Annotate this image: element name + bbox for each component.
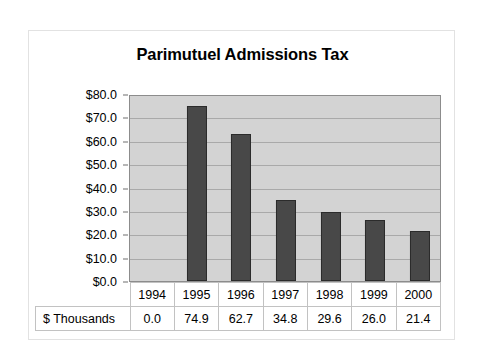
table-cell-value: 34.8 [263,307,307,331]
y-axis-tick-mark [123,118,128,119]
bar-slot-1999 [353,96,398,281]
table-row-values: $ Thousands 0.074.962.734.829.626.021.4 [36,307,441,331]
chart-title: Parimutuel Admissions Tax [29,45,456,64]
y-axis-tick-label: $10.0 [86,252,117,266]
table-cell-value: 29.6 [307,307,351,331]
bar-1998[interactable] [321,212,341,281]
y-axis-tick-label: $80.0 [86,88,117,102]
y-axis-tick-mark [123,258,128,259]
table-cell-year: 1996 [219,283,263,307]
bar-1997[interactable] [276,200,296,281]
y-axis-tick-label: $50.0 [86,158,117,172]
bar-2000[interactable] [410,231,430,281]
bar-slot-1998 [308,96,353,281]
bar-slot-1994 [130,96,175,281]
table-cell-year: 1995 [174,283,218,307]
y-axis-tick-label: $60.0 [86,135,117,149]
bar-1999[interactable] [365,220,385,281]
table-row-header-thousands: $ Thousands [36,307,131,331]
bar-slot-2000 [397,96,442,281]
y-axis-tick-label: $40.0 [86,182,117,196]
plot-area [129,95,441,282]
y-axis-tick-label: $20.0 [86,228,117,242]
table-corner-cell [36,283,131,307]
table-cell-value: 0.0 [130,307,174,331]
bar-1996[interactable] [231,134,251,281]
y-axis-tick-mark [123,165,128,166]
y-axis-tick-mark [123,211,128,212]
bar-1995[interactable] [187,106,207,281]
table-cell-year: 1999 [352,283,396,307]
y-axis-tick-mark [123,188,128,189]
chart-figure: Parimutuel Admissions Tax $0.0$10.0$20.0… [28,30,455,340]
table-cell-value: 21.4 [396,307,440,331]
y-axis-tick-mark [123,235,128,236]
table-cell-year: 1994 [130,283,174,307]
y-axis-tick-mark [123,95,128,96]
table-cell-year: 1998 [307,283,351,307]
data-table: 1994199519961997199819992000 $ Thousands… [35,282,441,331]
bar-slot-1996 [219,96,264,281]
table-cell-year: 1997 [263,283,307,307]
table-cell-value: 62.7 [219,307,263,331]
bar-slot-1995 [175,96,220,281]
table-cell-year: 2000 [396,283,440,307]
table-cell-value: 74.9 [174,307,218,331]
y-axis-tick-mark [123,141,128,142]
table-row-years: 1994199519961997199819992000 [36,283,441,307]
bar-slot-1997 [264,96,309,281]
y-axis-tick-label: $70.0 [86,111,117,125]
y-axis: $0.0$10.0$20.0$30.0$40.0$50.0$60.0$70.0$… [29,95,123,282]
table-cell-value: 26.0 [352,307,396,331]
y-axis-tick-label: $30.0 [86,205,117,219]
